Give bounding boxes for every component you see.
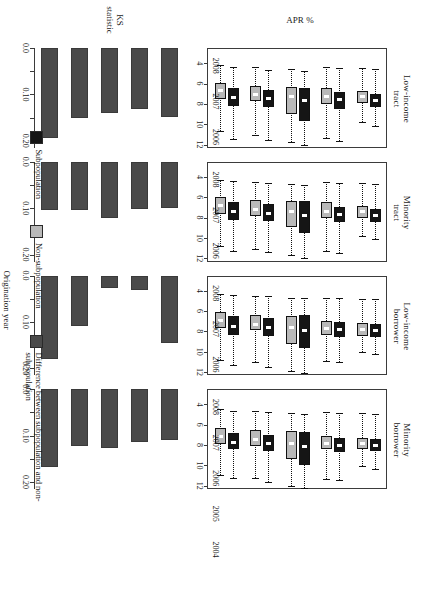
whisker-cap-high xyxy=(336,480,343,481)
median-marker xyxy=(302,445,307,448)
apr-tick-label: 12 xyxy=(195,368,204,376)
boxplot-row xyxy=(370,163,381,261)
boxplot-row xyxy=(263,390,274,488)
boxplot-row xyxy=(334,163,345,261)
panel-title-line1: Low-income xyxy=(402,75,412,123)
median-marker xyxy=(289,442,294,445)
box-non-subpopulation xyxy=(286,431,297,460)
ks-bar xyxy=(102,276,119,289)
whisker-cap-low xyxy=(265,296,272,297)
whisker-cap-low xyxy=(288,413,295,414)
apr-tick-label: 6 xyxy=(195,423,204,427)
whisker-cap-low xyxy=(359,413,366,414)
whisker-cap-high xyxy=(323,138,330,139)
median-marker xyxy=(360,328,365,331)
whisker-cap-high xyxy=(288,371,295,372)
median-marker xyxy=(266,212,271,215)
median-marker xyxy=(337,213,342,216)
panel-column-1: Low-incometract46810120.00.100.202004200… xyxy=(17,42,417,156)
median-marker xyxy=(289,95,294,98)
legend: SubpopulationNon-subpopulationDifference… xyxy=(16,40,44,594)
panel-title-line2: borrower xyxy=(392,309,402,344)
whisker-cap-low xyxy=(336,298,343,299)
boxplot-row xyxy=(357,277,368,375)
legend-label: Difference between subpopulation and non… xyxy=(24,353,44,503)
ks-bar xyxy=(42,276,59,360)
whisker-cap-high xyxy=(372,469,379,470)
legend-label: Subpopulation xyxy=(34,149,44,199)
boxplot-row xyxy=(286,277,297,375)
year-label: 2008 xyxy=(211,399,220,415)
legend-swatch-subpopulation xyxy=(30,131,43,144)
box-non-subpopulation xyxy=(286,201,297,226)
apr-tick-label: 12 xyxy=(195,254,204,262)
whisker-cap-high xyxy=(252,249,259,250)
whisker-cap-low xyxy=(323,298,330,299)
year-label: 2006 xyxy=(211,243,220,259)
boxplot-row xyxy=(250,277,261,375)
median-marker xyxy=(253,323,258,326)
whisker-cap-high xyxy=(301,488,308,489)
whisker-cap-high xyxy=(230,251,237,252)
whisker-cap-high xyxy=(301,145,308,146)
whisker-cap-low xyxy=(230,411,237,412)
whisker-cap-high xyxy=(336,362,343,363)
apr-tick-label: 4 xyxy=(195,289,204,293)
boxplot-row xyxy=(228,163,239,261)
apr-tick-label: 4 xyxy=(195,61,204,65)
panel-title-line1: Minority xyxy=(402,196,412,230)
figure-rotator: APR % KS statistic Low-incometract468101… xyxy=(0,0,425,600)
apr-axis-title: APR % xyxy=(286,15,313,25)
ks-bar xyxy=(132,48,149,109)
apr-tick-label: 10 xyxy=(195,234,204,242)
panel-title: Low-incomeborrower xyxy=(387,270,417,384)
whisker-cap-low xyxy=(301,185,308,186)
boxplot-row xyxy=(250,163,261,261)
median-marker xyxy=(302,329,307,332)
apr-tick-label: 8 xyxy=(195,102,204,106)
whisker-cap-high xyxy=(359,466,366,467)
ks-bar xyxy=(132,162,149,209)
median-marker xyxy=(324,95,329,98)
boxplot-row xyxy=(299,49,310,147)
boxplot-row xyxy=(357,163,368,261)
whisker-cap-low xyxy=(372,414,379,415)
ks-bar-panel: 0.00.100.20 xyxy=(35,276,185,376)
median-marker xyxy=(373,444,378,447)
whisker-cap-low xyxy=(230,67,237,68)
apr-tick-label: 10 xyxy=(195,348,204,356)
box-subpopulation xyxy=(299,201,310,233)
boxplot-row xyxy=(286,390,297,488)
panel-grid: Low-incometract46810120.00.100.202004200… xyxy=(17,42,417,497)
legend-item-non-subpopulation: Non-subpopulation xyxy=(30,225,44,309)
whisker-cap-low xyxy=(301,414,308,415)
boxplot-row xyxy=(250,390,261,488)
ks-bar-panel: 0.00.100.20 xyxy=(35,389,185,489)
ks-bar xyxy=(42,389,59,467)
apr-tick-label: 10 xyxy=(195,120,204,128)
apr-tick-label: 8 xyxy=(195,443,204,447)
year-label: 2007 xyxy=(211,321,220,337)
whisker-cap-low xyxy=(288,184,295,185)
boxplot-row xyxy=(321,49,332,147)
year-label: 2007 xyxy=(211,435,220,451)
whisker-cap-low xyxy=(372,184,379,185)
ks-bar xyxy=(162,162,179,208)
panel-title: Minorityborrower xyxy=(387,383,417,497)
median-marker xyxy=(253,438,258,441)
whisker-cap-low xyxy=(252,296,259,297)
apr-tick-label: 8 xyxy=(195,216,204,220)
whisker-cap-low xyxy=(323,412,330,413)
origination-year-axis-title: Origination year xyxy=(2,0,12,600)
whisker-cap-high xyxy=(372,126,379,127)
year-labels-boxplot: 20042005200620072008 xyxy=(207,276,221,376)
apr-tick-label: 6 xyxy=(195,82,204,86)
median-marker xyxy=(337,444,342,447)
apr-tick-label: 6 xyxy=(195,195,204,199)
legend-swatch-difference xyxy=(30,335,43,348)
whisker-cap-high xyxy=(301,373,308,374)
median-marker xyxy=(373,214,378,217)
whisker-cap-high xyxy=(288,142,295,143)
panel-title-line2: tract xyxy=(392,204,402,221)
median-marker xyxy=(289,210,294,213)
